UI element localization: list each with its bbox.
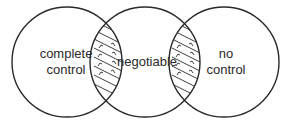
arrow-marks-left — [98, 43, 116, 75]
label-line: complete — [34, 46, 98, 62]
label-line: control — [34, 62, 98, 78]
label-complete-control: complete control — [34, 46, 98, 78]
label-line: control — [202, 62, 250, 78]
arrow-marks-right — [176, 43, 194, 75]
label-negotiable: negotiable — [117, 54, 177, 70]
label-line: negotiable — [117, 54, 177, 70]
label-no-control: no control — [202, 46, 250, 78]
label-line: no — [202, 46, 250, 62]
